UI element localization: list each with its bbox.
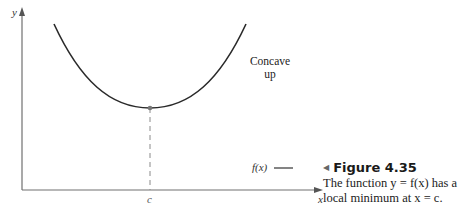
figure-caption: ◀Figure 4.35 The function y = f(x) has a… [323,160,473,206]
concave-up-annotation: Concave up [248,55,292,81]
caption-title-row: ◀Figure 4.35 [323,160,473,175]
y-axis-label: y [12,6,17,18]
legend-label: f(x) [252,161,267,173]
caption-line-1: The function y = f(x) has a [323,176,473,191]
caption-line-2: local minimum at x = c. [323,191,473,206]
caption-marker-icon: ◀ [323,163,329,172]
annotation-line-2: up [248,68,292,81]
tick-label-c: c [147,193,152,205]
y-axis-arrow-icon [19,7,25,16]
caption-title: Figure 4.35 [333,160,417,175]
local-minimum-point [148,106,153,111]
function-curve [54,24,246,108]
annotation-line-1: Concave [248,55,292,68]
